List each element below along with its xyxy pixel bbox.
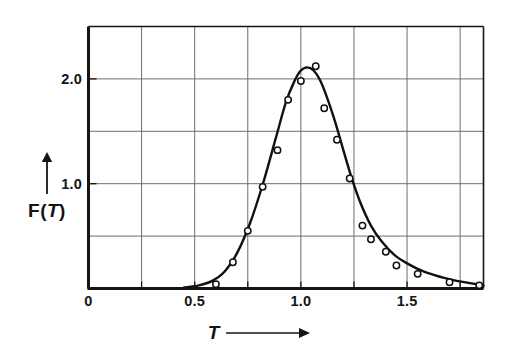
fitted-curve [184,67,483,287]
y-axis-title-group: F(T) [12,150,82,222]
data-point [213,281,219,287]
y-axis-title-f: F( [28,200,47,221]
y-axis-title: F(T) [12,200,82,222]
figure-panel: 00.51.01.5 1.02.0 F(T) T [0,0,507,358]
data-point [347,175,353,181]
x-axis-title-group: T [170,322,350,344]
data-point [359,222,365,228]
x-axis-title: T [208,322,220,344]
arrow-up-icon [36,150,58,196]
data-points-layer [213,63,483,288]
grid-layer [89,27,484,289]
x-tick-label: 0 [84,293,92,309]
data-point [274,147,280,153]
curve-path [184,67,483,287]
data-point [334,136,340,142]
data-point [383,249,389,255]
data-point [313,63,319,69]
data-point [368,236,374,242]
data-point [393,262,399,268]
y-tick-label: 2.0 [46,71,82,87]
data-point [245,228,251,234]
data-point [476,282,482,288]
x-tick-label: 0.5 [184,293,205,309]
y-axis-title-close: ) [59,200,66,221]
data-point [321,105,327,111]
arrow-right-icon [226,325,312,341]
data-point [446,279,452,285]
data-point [285,97,291,103]
x-tick-label: 1.5 [397,293,418,309]
data-point [414,271,420,277]
data-point [230,259,236,265]
y-axis-title-var: T [47,200,59,221]
axes-frame [88,27,484,289]
data-point [259,184,265,190]
data-point [298,78,304,84]
x-tick-label: 1.0 [290,293,311,309]
